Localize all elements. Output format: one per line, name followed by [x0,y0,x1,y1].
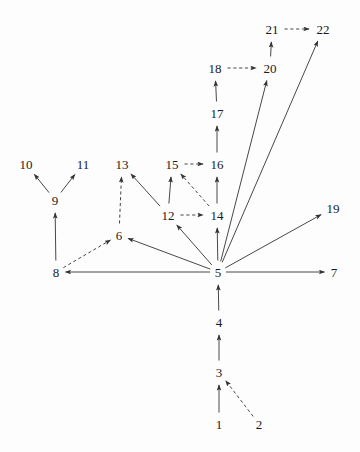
node-20: 20 [264,62,277,75]
node-1: 1 [216,418,223,431]
edge-12-to-13 [131,174,160,206]
edge-9-to-10 [34,174,49,192]
edge-5-to-14 [217,228,218,261]
graph-edges-layer [0,0,360,452]
edge-17-to-18 [216,81,217,102]
node-7: 7 [331,266,338,279]
node-13: 13 [116,158,129,171]
edge-9-to-11 [61,175,75,193]
node-4: 4 [216,316,223,329]
edge-6-to-13 [119,177,121,224]
edge-group [34,29,324,416]
node-8: 8 [53,266,60,279]
node-5: 5 [215,266,222,279]
edge-20-to-21 [271,42,272,57]
edge-2-to-3 [226,381,253,417]
edge-5-to-6 [128,238,210,269]
node-10: 10 [20,158,33,171]
edge-8-to-6 [63,240,110,268]
node-22: 22 [317,23,330,36]
node-2: 2 [256,418,263,431]
node-17: 17 [211,107,224,120]
node-9: 9 [52,194,59,207]
node-16: 16 [211,158,224,171]
node-15: 15 [166,158,179,171]
edge-14-to-15 [181,174,209,206]
edge-12-to-15 [169,177,171,204]
node-18: 18 [209,62,222,75]
edge-5-to-20 [221,81,267,262]
node-19: 19 [327,202,340,215]
edge-4-to-5 [218,285,219,311]
node-12: 12 [162,209,175,222]
diagram-canvas: 12345678910111213141516171819202122 [0,0,360,452]
node-11: 11 [77,158,90,171]
node-3: 3 [216,366,223,379]
node-14: 14 [211,209,224,222]
edge-8-to-9 [55,213,56,261]
node-6: 6 [116,229,123,242]
node-21: 21 [266,23,279,36]
